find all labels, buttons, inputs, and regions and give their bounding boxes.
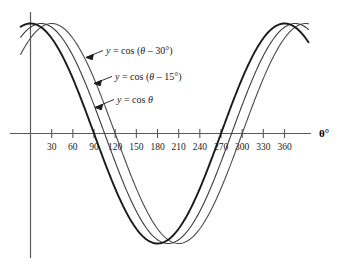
x-tick-label-60: 60 [68,142,78,152]
x-tick-label-240: 240 [193,142,208,152]
x-tick-label-180: 180 [150,142,165,152]
x-axis-tick-labels: 306090120150180210240270300330360 [47,142,292,152]
annotation-leaders [86,51,114,110]
leader-line-cos-theta-minus-30 [86,51,103,60]
label-cos-theta: y = cos θ [116,94,153,105]
label-cos-theta-minus-15: y = cos (θ – 15°) [114,71,182,83]
x-tick-label-150: 150 [129,142,144,152]
label-cos-theta-minus-30: y = cos (θ – 30°) [105,45,173,57]
x-tick-label-330: 330 [256,142,271,152]
plot-area: 306090120150180210240270300330360 [0,0,342,263]
x-axis-title: θ° [319,127,329,139]
x-tick-label-30: 30 [47,142,57,152]
x-tick-label-360: 360 [277,142,292,152]
leader-line-cos-theta-minus-15 [94,77,112,86]
x-tick-label-210: 210 [172,142,187,152]
cosine-phase-shift-figure: 306090120150180210240270300330360 [0,0,342,263]
